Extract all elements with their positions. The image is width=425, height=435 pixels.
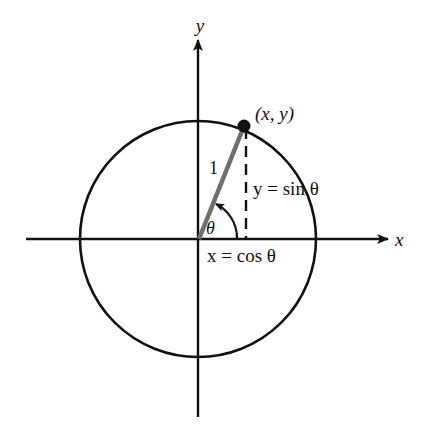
y-axis-label: y: [194, 15, 205, 36]
radius-label: 1: [209, 158, 218, 178]
angle-arc-icon: [216, 204, 237, 238]
point-label: (x, y): [255, 103, 294, 125]
unit-circle-diagram: y x (x, y) 1 θ y = sin θ x = cos θ: [0, 0, 425, 435]
angle-label: θ: [206, 218, 215, 238]
point-marker: [238, 120, 251, 133]
x-axis-label: x: [394, 229, 404, 250]
sine-label: y = sin θ: [253, 178, 319, 199]
cosine-label: x = cos θ: [207, 245, 276, 266]
